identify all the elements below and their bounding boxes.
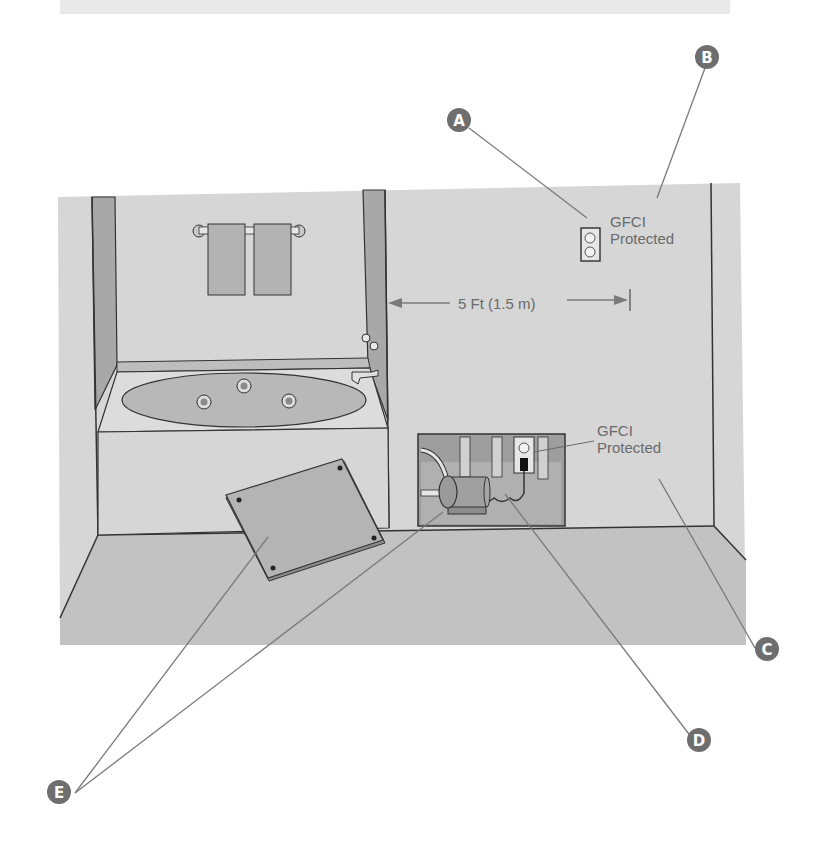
- gfci-upper-line2: Protected: [610, 230, 674, 247]
- gfci-outlet-lower-icon: [514, 437, 534, 473]
- marker-e: E: [47, 780, 71, 804]
- floor: [60, 526, 746, 645]
- jet-icon: [282, 394, 296, 408]
- gfci-outlet-upper-icon: [581, 228, 600, 261]
- svg-text:E: E: [54, 784, 64, 802]
- gfci-upper-line1: GFCI: [610, 213, 646, 230]
- svg-text:C: C: [761, 641, 772, 659]
- screw-icon: [338, 466, 343, 471]
- faucet-handle-icon: [370, 342, 378, 350]
- gfci-lower-line2: Protected: [597, 439, 661, 456]
- faucet-handle-icon: [362, 334, 370, 342]
- gfci-lower-line1: GFCI: [597, 422, 633, 439]
- screw-icon: [237, 498, 242, 503]
- svg-text:B: B: [701, 49, 712, 67]
- pump-motor: [439, 476, 490, 514]
- towel-left: [208, 224, 245, 295]
- marker-a: A: [447, 108, 471, 132]
- room-scene: 5 Ft (1.5 m) GFCI Protected GFCI Protect…: [58, 183, 746, 645]
- marker-c: C: [755, 637, 779, 661]
- marker-d: D: [687, 728, 711, 752]
- distance-label: 5 Ft (1.5 m): [458, 295, 536, 312]
- svg-text:D: D: [693, 732, 705, 750]
- jet-icon: [197, 395, 211, 409]
- screw-icon: [372, 536, 377, 541]
- pump-access-opening: [418, 434, 565, 526]
- marker-b: B: [695, 45, 719, 69]
- bathroom-diagram: 5 Ft (1.5 m) GFCI Protected GFCI Protect…: [0, 0, 822, 856]
- towel-right: [254, 224, 291, 295]
- screw-icon: [271, 566, 276, 571]
- svg-text:A: A: [453, 112, 465, 130]
- jet-icon: [237, 379, 251, 393]
